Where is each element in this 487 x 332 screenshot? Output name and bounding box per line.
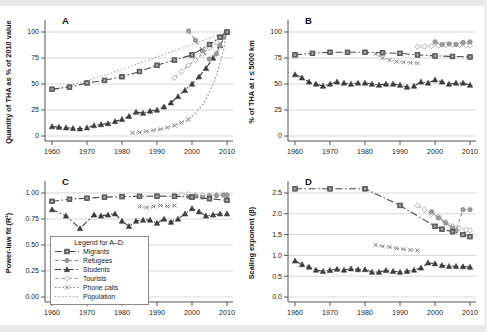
xtick-label: 1980 [114,147,130,156]
chart-canvas-B: 0255075100196019701980199020002010% of T… [243,2,486,168]
ytick-label: 1.00 [25,189,39,196]
ytick-label: 2.5 [272,189,282,196]
ytick-label: 0.75 [25,215,39,222]
xtick-label: 1960 [287,147,303,156]
xtick-label: 1970 [79,308,95,317]
xtick-label: 1990 [392,147,408,156]
ytick-label: 50 [31,80,39,87]
series-students [49,206,229,231]
series-population [52,32,227,90]
legend-title: Legend for A–D: [54,239,145,246]
legend-item-tourists: Tourists [54,274,145,283]
ytick-label: 25 [31,106,39,113]
ytick-label: 100 [270,28,282,35]
phone_calls-sample-icon [54,283,80,292]
chart-canvas-A: 0255075100196019701980199020002010Quanti… [0,2,243,168]
panel-letter-A: A [62,15,69,26]
xtick-label: 2000 [427,308,443,317]
ytick-label: 0 [35,132,39,139]
xtick-label: 2010 [462,147,478,156]
xtick-label: 1980 [357,308,373,317]
tourists-sample-icon [54,274,80,283]
legend-label-phone_calls: Phone calls [83,283,118,292]
ytick-label: 0.25 [25,267,39,274]
legend-entries: MigrantsRefugeesStudentsTouristsPhone ca… [54,247,145,301]
ytick-label: 0.0 [272,293,282,300]
xtick-label: 1990 [149,308,165,317]
series-students [49,29,229,131]
figure-four-panel-chart: 0255075100196019701980199020002010Quanti… [0,0,487,332]
panel-letter-C: C [62,176,69,187]
series-migrants [50,30,230,92]
ytick-label: 50 [274,80,282,87]
panel-letter-B: B [305,15,312,26]
ytick-label: 1.5 [272,231,282,238]
series-phone_calls [374,243,420,252]
legend-label-population: Population [83,292,115,301]
legend-label-refugees: Refugees [83,256,112,265]
xtick-label: 2000 [427,147,443,156]
xtick-label: 1960 [287,308,303,317]
legend-label-students: Students [83,265,110,274]
ytick-label: 75 [274,54,282,61]
y-axis-label-D: Scaling exponent (β) [247,206,256,279]
series-phone_calls [138,203,177,209]
legend-item-phone_calls: Phone calls [54,283,145,292]
ytick-label: 100 [27,28,39,35]
legend-item-students: Students [54,265,145,274]
xtick-label: 1970 [322,308,338,317]
ytick-label: 2.0 [272,210,282,217]
ytick-label: 0.00 [25,293,39,300]
xtick-label: 2010 [462,308,478,317]
refugees-sample-icon [54,256,80,265]
xtick-label: 2000 [184,147,200,156]
legend-label-tourists: Tourists [83,274,106,283]
y-axis-label-B: % of THA at r ≤ 5000 km [247,40,256,124]
series-students [292,72,472,89]
xtick-label: 1960 [44,308,60,317]
series-migrants [293,187,473,239]
xtick-label: 1980 [357,147,373,156]
legend-label-migrants: Migrants [83,247,109,256]
xtick-label: 2010 [219,147,235,156]
ytick-label: 75 [31,54,39,61]
ytick-label: 25 [274,106,282,113]
panel-b-pct-tha-within-5000km: 0255075100196019701980199020002010% of T… [243,2,486,168]
xtick-label: 1990 [149,147,165,156]
ytick-label: 1.0 [272,252,282,259]
xtick-label: 1980 [114,308,130,317]
xtick-label: 1970 [79,147,95,156]
xtick-label: 2000 [184,308,200,317]
chart-canvas-D: 0.00.51.01.52.02.51960197019801990200020… [243,163,486,329]
legend-item-migrants: Migrants [54,247,145,256]
panel-letter-D: D [305,176,312,187]
students-sample-icon [54,265,80,274]
ytick-label: 0.5 [272,273,282,280]
ytick-label: 0 [278,132,282,139]
xtick-label: 1960 [44,147,60,156]
population-sample-icon [54,292,80,301]
y-axis-label-C: Power-law fit (R²) [4,212,13,273]
xtick-label: 2010 [219,308,235,317]
y-axis-label-A: Quantity of THA as % of 2010 value [4,20,13,143]
panel-a-quantity-of-tha: 0255075100196019701980199020002010Quanti… [0,2,243,168]
ytick-label: 0.50 [25,241,39,248]
migrants-sample-icon [54,247,80,256]
panel-d-scaling-exponent: 0.00.51.01.52.02.51960197019801990200020… [243,163,486,329]
xtick-label: 1990 [392,308,408,317]
series-students [292,258,472,274]
chart-legend: Legend for A–D: MigrantsRefugeesStudents… [50,236,149,305]
xtick-label: 1970 [322,147,338,156]
legend-item-refugees: Refugees [54,256,145,265]
gridlines-D [288,193,476,297]
legend-item-population: Population [54,292,145,301]
